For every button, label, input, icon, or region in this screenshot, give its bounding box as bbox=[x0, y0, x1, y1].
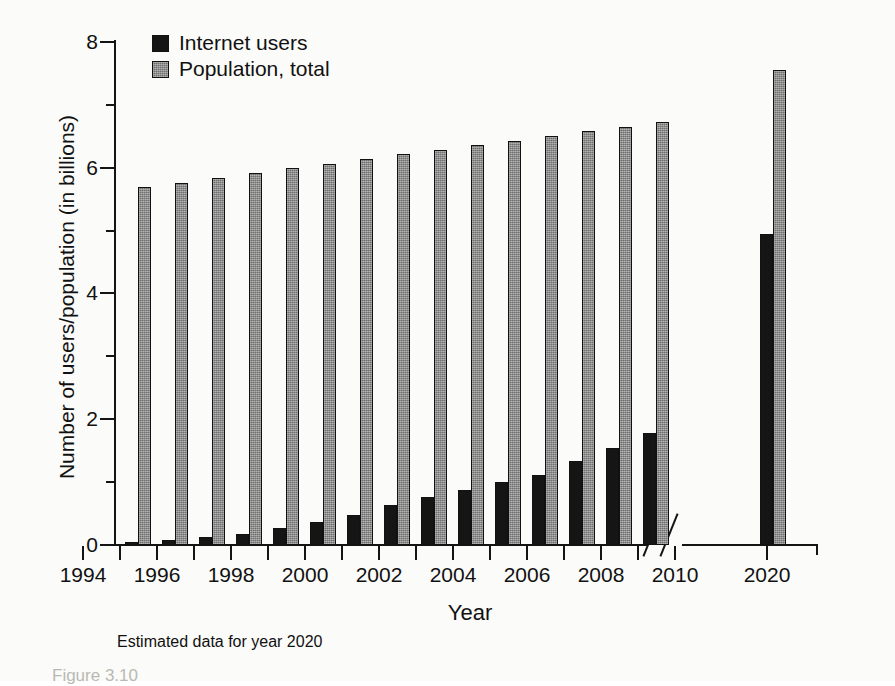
bar-population-total-2006 bbox=[545, 136, 558, 545]
bar-population-total-2002 bbox=[397, 154, 410, 545]
x-axis-tick-1995 bbox=[119, 546, 121, 560]
chart-footnote: Estimated data for year 2020 bbox=[117, 633, 322, 651]
bar-internet-users-2000 bbox=[310, 522, 323, 545]
bar-internet-users-2002 bbox=[384, 505, 397, 545]
x-axis-tick-2006 bbox=[526, 546, 528, 560]
bar-internet-users-2003 bbox=[421, 497, 434, 545]
x-axis-tick-2003 bbox=[415, 546, 417, 560]
bar-population-total-2008 bbox=[619, 127, 632, 545]
bar-internet-users-1996 bbox=[162, 540, 175, 545]
legend-item-population-total: Population, total bbox=[152, 56, 330, 82]
bar-population-total-1995 bbox=[138, 187, 151, 545]
bar-population-total-1997 bbox=[212, 178, 225, 545]
x-axis-tick-2005 bbox=[489, 546, 491, 560]
bar-internet-users-2008 bbox=[606, 448, 619, 545]
x-axis-tick-2008 bbox=[600, 546, 602, 560]
x-axis-tick-2009 bbox=[637, 546, 639, 560]
x-axis-tick-label-2010: 2010 bbox=[635, 563, 715, 586]
bar-population-total-2009 bbox=[656, 122, 669, 545]
x-axis-line-right-segment bbox=[682, 544, 818, 546]
legend-swatch-internet-users-icon bbox=[152, 35, 169, 52]
x-axis-tick-2007 bbox=[563, 546, 565, 560]
bar-internet-users-2009 bbox=[643, 433, 656, 545]
bar-population-total-2001 bbox=[360, 159, 373, 545]
x-axis-tick-label-2002: 2002 bbox=[339, 563, 419, 586]
x-axis-tick-1994 bbox=[82, 546, 84, 560]
x-axis-tick-2002 bbox=[378, 546, 380, 560]
x-axis-tick-2001 bbox=[341, 546, 343, 560]
x-axis-tick-label-2000: 2000 bbox=[265, 563, 345, 586]
legend-item-internet-users: Internet users bbox=[152, 30, 330, 56]
bar-internet-users-1998 bbox=[236, 534, 249, 545]
y-axis-tick-major bbox=[100, 41, 115, 43]
bar-internet-users-2020 bbox=[760, 234, 773, 545]
y-axis-tick-minor bbox=[106, 230, 115, 232]
x-axis-tick-label-2008: 2008 bbox=[561, 563, 641, 586]
bar-internet-users-1999 bbox=[273, 528, 286, 545]
x-axis-tick-1998 bbox=[230, 546, 232, 560]
bar-internet-users-1995 bbox=[125, 542, 138, 545]
bar-population-total-2005 bbox=[508, 141, 521, 545]
x-axis-tick-1999 bbox=[267, 546, 269, 560]
bar-internet-users-2001 bbox=[347, 515, 360, 545]
x-axis-tick-1997 bbox=[193, 546, 195, 560]
figure-caption: Figure 3.10 bbox=[52, 666, 138, 686]
bar-population-total-2004 bbox=[471, 145, 484, 545]
bar-population-total-2020 bbox=[773, 70, 786, 545]
y-axis-title: Number of users/population (in billions) bbox=[55, 62, 79, 532]
y-axis-tick-major bbox=[100, 418, 115, 420]
x-axis-tick-2010 bbox=[674, 546, 676, 560]
x-axis-tick-label-2020: 2020 bbox=[727, 563, 807, 586]
x-axis-tick-label-2004: 2004 bbox=[413, 563, 493, 586]
y-axis-tick-minor bbox=[106, 104, 115, 106]
x-axis-title: Year bbox=[390, 600, 550, 626]
x-axis-tick-label-2006: 2006 bbox=[487, 563, 567, 586]
bar-population-total-2003 bbox=[434, 150, 447, 545]
x-axis-end-cap bbox=[816, 544, 818, 555]
y-axis-tick-major bbox=[100, 544, 115, 546]
x-axis-tick-2004 bbox=[452, 546, 454, 560]
y-axis-tick-minor bbox=[106, 355, 115, 357]
bar-population-total-1998 bbox=[249, 173, 262, 545]
bar-internet-users-2006 bbox=[532, 475, 545, 545]
bar-internet-users-2007 bbox=[569, 461, 582, 545]
x-axis-tick-label-1998: 1998 bbox=[191, 563, 271, 586]
bar-internet-users-1997 bbox=[199, 537, 212, 545]
y-axis-tick-label: 0 bbox=[58, 534, 98, 555]
y-axis-tick-major bbox=[100, 167, 115, 169]
legend-label-internet-users: Internet users bbox=[179, 32, 307, 54]
bar-population-total-2000 bbox=[323, 164, 336, 545]
legend-label-population-total: Population, total bbox=[179, 58, 330, 80]
bar-population-total-2007 bbox=[582, 131, 595, 545]
x-axis-tick-2020 bbox=[766, 546, 768, 560]
x-axis-tick-1996 bbox=[156, 546, 158, 560]
bar-internet-users-2005 bbox=[495, 482, 508, 545]
x-axis-tick-label-1994: 1994 bbox=[43, 563, 123, 586]
legend-swatch-population-total-icon bbox=[152, 61, 169, 78]
y-axis-tick-major bbox=[100, 292, 115, 294]
bar-population-total-1996 bbox=[175, 183, 188, 545]
chart-legend: Internet users Population, total bbox=[152, 30, 330, 82]
x-axis-tick-2000 bbox=[304, 546, 306, 560]
y-axis-tick-minor bbox=[106, 481, 115, 483]
bar-population-total-1999 bbox=[286, 168, 299, 545]
bar-internet-users-2004 bbox=[458, 490, 471, 545]
x-axis-tick-label-1996: 1996 bbox=[117, 563, 197, 586]
y-axis-tick-label: 8 bbox=[58, 31, 98, 52]
